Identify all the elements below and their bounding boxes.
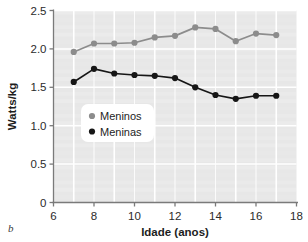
y-tick-label: 0.5	[31, 158, 47, 170]
data-point-meninos	[152, 34, 158, 40]
legend-label-meninas: Meninas	[100, 126, 142, 138]
chart-legend: MeninosMeninas	[81, 104, 154, 142]
data-point-meninas	[111, 70, 117, 76]
y-axis-title: Watts/kg	[6, 83, 18, 131]
data-point-meninos	[111, 40, 117, 46]
data-point-meninas	[152, 73, 158, 79]
y-tick-label: 1.5	[31, 81, 47, 93]
figure-panel: 00.51.01.52.02.5681012141618 Idade (anos…	[0, 0, 308, 242]
y-tick-label: 2.5	[31, 5, 47, 17]
data-point-meninos	[233, 38, 239, 44]
data-point-meninas	[131, 72, 137, 78]
y-tick-label: 2.0	[31, 43, 47, 55]
x-tick-label: 6	[50, 210, 56, 222]
data-point-meninas	[233, 96, 239, 102]
data-point-meninas	[253, 93, 259, 99]
data-point-meninas	[212, 92, 218, 98]
y-tick-label: 1.0	[31, 120, 47, 132]
x-axis-title: Idade (anos)	[141, 226, 209, 238]
data-point-meninos	[273, 32, 279, 38]
x-tick-label: 10	[128, 210, 141, 222]
x-tick-label: 18	[290, 210, 303, 222]
x-tick-label: 8	[91, 210, 97, 222]
data-point-meninos	[192, 24, 198, 30]
data-point-meninas	[172, 75, 178, 81]
data-point-meninos	[172, 33, 178, 39]
legend-label-meninos: Meninos	[100, 110, 142, 122]
data-point-meninas	[273, 93, 279, 99]
data-point-meninos	[71, 49, 77, 55]
data-point-meninos	[212, 26, 218, 32]
data-point-meninas	[91, 66, 97, 72]
data-point-meninos	[91, 40, 97, 46]
legend-marker-meninas	[89, 128, 95, 134]
y-tick-label: 0	[40, 197, 46, 209]
data-point-meninos	[131, 40, 137, 46]
data-point-meninas	[71, 79, 77, 85]
data-point-meninos	[253, 30, 259, 36]
x-tick-label: 16	[250, 210, 263, 222]
x-tick-label: 12	[169, 210, 182, 222]
panel-label: b	[8, 222, 14, 234]
x-tick-label: 14	[209, 210, 222, 222]
data-point-meninas	[192, 84, 198, 90]
line-chart: 00.51.01.52.02.5681012141618 Idade (anos…	[0, 0, 308, 242]
legend-marker-meninos	[89, 113, 95, 119]
